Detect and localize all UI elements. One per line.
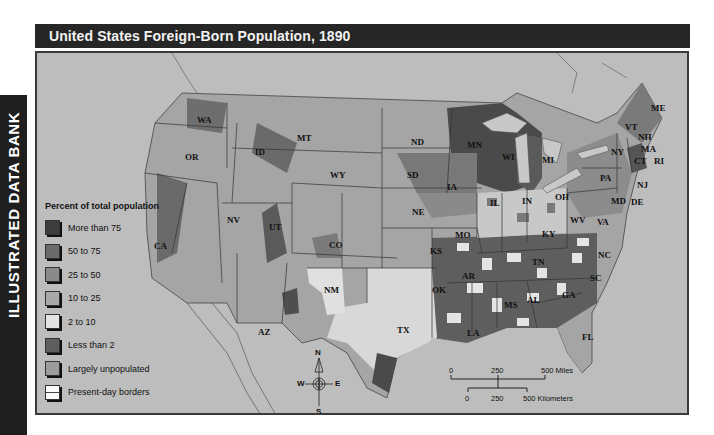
legend-label: 50 to 75 — [68, 246, 101, 256]
legend-item-more-than-75: More than 75 — [45, 216, 195, 240]
state-label-ok: OK — [432, 285, 446, 295]
state-label-il: IL — [490, 198, 500, 208]
legend-swatch — [45, 267, 60, 282]
scale-bar: 0 250 500 Miles 0 250 500 Kilometers — [445, 366, 585, 406]
state-label-tx: TX — [397, 325, 410, 335]
state-label-tn: TN — [532, 257, 545, 267]
side-tab-label: ILLUSTRATED DATA BANK — [0, 95, 27, 335]
compass-east: E — [335, 379, 340, 388]
compass-west: W — [297, 379, 305, 388]
side-tab: ILLUSTRATED DATA BANK — [0, 95, 27, 435]
scale-miles-500: 500 Miles — [541, 366, 573, 375]
legend-item-present-day-borders: Present-day borders — [45, 381, 195, 405]
state-label-nh: NH — [638, 132, 652, 142]
state-label-ma: MA — [641, 144, 656, 154]
legend: Percent of total population More than 75… — [45, 201, 195, 404]
legend-swatch — [45, 291, 60, 306]
state-label-az: AZ — [258, 327, 271, 337]
title-bar: United States Foreign-Born Population, 1… — [35, 24, 690, 48]
legend-label: Less than 2 — [68, 340, 115, 350]
state-label-ks: KS — [430, 246, 442, 256]
state-label-wi: WI — [502, 152, 515, 162]
map-frame: WA OR CA ID NV MT WY UT AZ CO NM ND SD N… — [35, 51, 689, 415]
state-label-va: VA — [597, 217, 609, 227]
state-label-ms: MS — [504, 300, 518, 310]
legend-label: Largely unpopulated — [68, 364, 150, 374]
state-label-al: AL — [527, 295, 540, 305]
state-label-ut: UT — [269, 222, 282, 232]
legend-label: More than 75 — [68, 223, 121, 233]
legend-swatch — [45, 385, 60, 400]
state-label-ri: RI — [654, 156, 664, 166]
state-label-mi: MI — [542, 155, 554, 165]
compass-south: S — [316, 407, 321, 415]
legend-label: 10 to 25 — [68, 293, 101, 303]
legend-item-largely-unpopulated: Largely unpopulated — [45, 357, 195, 381]
state-label-oh: OH — [555, 192, 569, 202]
legend-item-10-to-25: 10 to 25 — [45, 287, 195, 311]
state-label-ct: CT — [634, 156, 647, 166]
legend-title: Percent of total population — [45, 201, 195, 211]
state-label-ga: GA — [562, 290, 576, 300]
compass-rose: N W E S — [295, 348, 345, 415]
legend-item-less-than-2: Less than 2 — [45, 334, 195, 358]
state-label-nj: NJ — [637, 180, 648, 190]
state-label-md: MD — [611, 196, 626, 206]
state-label-in: IN — [522, 196, 533, 206]
legend-swatch — [45, 361, 60, 376]
state-label-mn: MN — [467, 140, 482, 150]
state-label-wy: WY — [330, 170, 346, 180]
legend-swatch — [45, 220, 60, 235]
state-label-wv: WV — [570, 215, 586, 225]
state-label-ne: NE — [412, 207, 425, 217]
state-label-nm: NM — [324, 285, 339, 295]
legend-swatch — [45, 338, 60, 353]
state-label-ia: IA — [447, 182, 458, 192]
state-label-nd: ND — [411, 137, 424, 147]
legend-label: 25 to 50 — [68, 270, 101, 280]
state-label-or: OR — [185, 152, 199, 162]
scale-miles-250: 250 — [491, 366, 504, 375]
state-label-sc: SC — [590, 273, 602, 283]
state-label-nc: NC — [598, 250, 611, 260]
state-label-ar: AR — [462, 271, 475, 281]
legend-swatch — [45, 314, 60, 329]
state-label-nv: NV — [227, 215, 240, 225]
scale-miles-0: 0 — [449, 366, 453, 375]
legend-swatch — [45, 244, 60, 259]
state-label-fl: FL — [582, 332, 594, 342]
legend-label: 2 to 10 — [68, 317, 96, 327]
legend-item-2-to-10: 2 to 10 — [45, 310, 195, 334]
state-label-wa: WA — [197, 115, 212, 125]
state-label-ny: NY — [611, 147, 624, 157]
scale-km-0: 0 — [465, 394, 469, 403]
state-label-mt: MT — [297, 133, 312, 143]
state-label-sd: SD — [407, 170, 419, 180]
legend-item-25-to-50: 25 to 50 — [45, 263, 195, 287]
state-label-ky: KY — [542, 229, 556, 239]
state-label-vt: VT — [625, 122, 638, 132]
state-label-la: LA — [467, 328, 480, 338]
map-title: United States Foreign-Born Population, 1… — [49, 28, 350, 44]
scale-km-250: 250 — [491, 394, 504, 403]
legend-item-50-to-75: 50 to 75 — [45, 240, 195, 264]
state-label-me: ME — [651, 103, 666, 113]
state-label-id: ID — [255, 147, 266, 157]
state-label-pa: PA — [600, 173, 612, 183]
state-label-mo: MO — [455, 230, 471, 240]
legend-label: Present-day borders — [68, 387, 150, 397]
scale-km-500: 500 Kilometers — [523, 394, 573, 403]
state-label-de: DE — [631, 197, 644, 207]
state-label-co: CO — [329, 240, 343, 250]
